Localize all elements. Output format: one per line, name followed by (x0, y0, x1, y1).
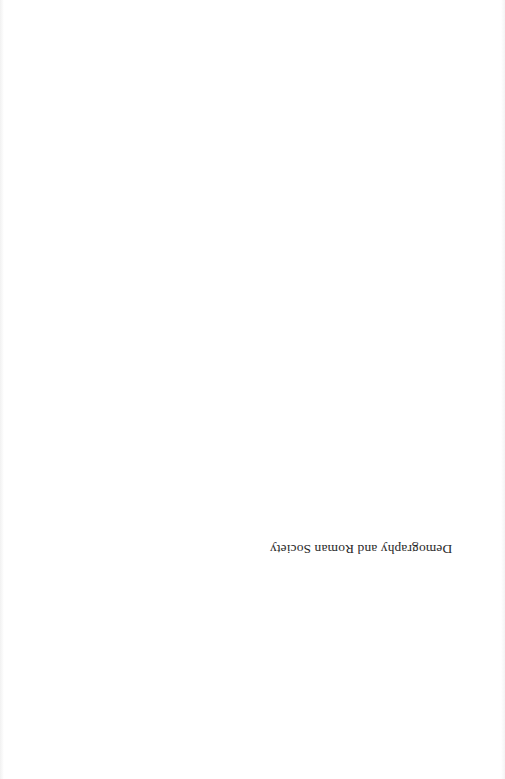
page-edge-right (501, 0, 505, 779)
page-edge-left (0, 0, 4, 779)
half-title: Demography and Roman Society (266, 540, 456, 558)
book-page: Demography and Roman Society (0, 0, 505, 779)
